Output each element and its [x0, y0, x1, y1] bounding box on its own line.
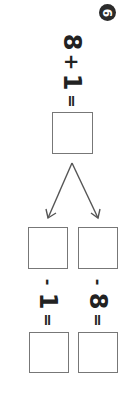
left-result-box[interactable]	[29, 332, 69, 373]
right-branch-equals: =	[86, 308, 110, 332]
right-result-box[interactable]	[78, 332, 118, 373]
left-branch-equals: =	[36, 308, 60, 332]
right-branch-box[interactable]	[78, 227, 118, 269]
left-branch-box[interactable]	[28, 227, 68, 269]
